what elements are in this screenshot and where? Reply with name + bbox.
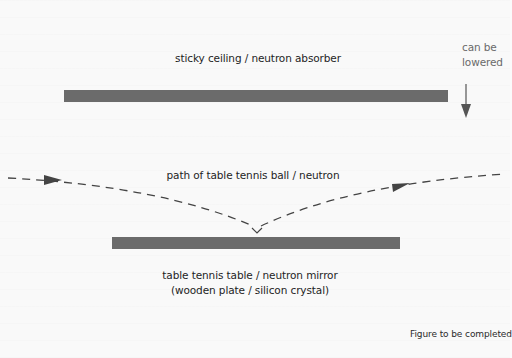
incoming-path: [8, 178, 253, 226]
arrow-right-icon: [392, 183, 410, 192]
arrow-right-icon: [44, 175, 62, 185]
bounce-vertex-icon: [252, 228, 262, 233]
down-arrow-icon: [461, 84, 471, 118]
outgoing-path: [261, 174, 505, 226]
